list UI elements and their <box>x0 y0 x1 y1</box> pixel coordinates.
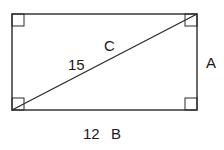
height-letter-label: A <box>206 54 216 71</box>
base-letter-label: B <box>111 125 121 142</box>
rectangle-diagram: 15 C A 12 B <box>0 0 224 150</box>
diagonal-letter-label: C <box>104 37 115 54</box>
base-length-label: 12 <box>83 125 100 142</box>
right-angle-marker-top-left <box>12 14 24 26</box>
diagonal-line <box>12 14 197 110</box>
diagonal-length-label: 15 <box>68 56 85 73</box>
right-angle-marker-bottom-right <box>185 98 197 110</box>
